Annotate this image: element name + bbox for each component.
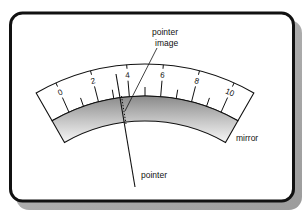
pointer-image-label-line2: image: [155, 38, 178, 48]
pointer-label: pointer: [141, 170, 167, 180]
meter-diagram: 0246810 pointer image mirror pointer: [0, 0, 307, 215]
mirror-label: mirror: [236, 133, 258, 143]
pointer-image-label-line1: pointer: [152, 27, 178, 37]
